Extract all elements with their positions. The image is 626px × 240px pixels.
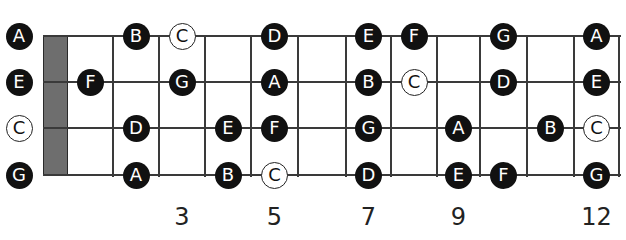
fret-number-3: 3 xyxy=(174,203,189,231)
fret-number-12: 12 xyxy=(581,203,612,231)
note-a-fret-5: D xyxy=(261,23,288,50)
fret-line-9 xyxy=(479,35,481,177)
note-a-fret-7: E xyxy=(355,23,382,50)
note-c-fret-0: C xyxy=(6,115,33,142)
note-e-fret-1: F xyxy=(77,69,104,96)
fret-line-12 xyxy=(618,35,620,177)
note-e-fret-10: D xyxy=(490,69,517,96)
fret-line-6 xyxy=(345,35,347,177)
note-e-fret-7: B xyxy=(355,69,382,96)
note-c-fret-4: E xyxy=(215,115,242,142)
fret-line-5 xyxy=(297,35,299,177)
note-c-fret-2: D xyxy=(123,115,150,142)
note-a-fret-8: F xyxy=(401,23,428,50)
note-c-fret-5: F xyxy=(261,115,288,142)
fret-line-10 xyxy=(526,35,528,177)
fret-line-11 xyxy=(573,35,575,177)
note-e-fret-5: A xyxy=(261,69,288,96)
note-g-fret-5: C xyxy=(261,162,288,189)
note-a-fret-3: C xyxy=(169,23,196,50)
string-line-e xyxy=(43,81,621,83)
fret-number-5: 5 xyxy=(267,203,282,231)
fretboard-diagram: ABCDEFGAEFGABCDECDEFGABCGABCDEFG357912 xyxy=(0,0,626,240)
note-a-fret-2: B xyxy=(123,23,150,50)
note-c-fret-11: B xyxy=(537,115,564,142)
fret-number-7: 7 xyxy=(361,203,376,231)
note-g-fret-10: F xyxy=(490,162,517,189)
note-e-fret-8: C xyxy=(401,69,428,96)
fret-line-2 xyxy=(158,35,160,177)
note-a-fret-10: G xyxy=(490,23,517,50)
note-c-fret-12: C xyxy=(583,115,610,142)
fret-line-8 xyxy=(436,35,438,177)
fret-line-4 xyxy=(250,35,252,177)
note-a-fret-0: A xyxy=(6,23,33,50)
note-g-fret-4: B xyxy=(215,162,242,189)
note-g-fret-9: E xyxy=(445,162,472,189)
note-g-fret-12: G xyxy=(583,162,610,189)
note-g-fret-0: G xyxy=(6,162,33,189)
note-a-fret-12: A xyxy=(583,23,610,50)
note-c-fret-7: G xyxy=(355,115,382,142)
note-g-fret-2: A xyxy=(123,162,150,189)
note-e-fret-0: E xyxy=(6,69,33,96)
nut xyxy=(43,35,68,176)
note-c-fret-9: A xyxy=(445,115,472,142)
fret-line-7 xyxy=(390,35,392,177)
fret-line-3 xyxy=(204,35,206,177)
fret-number-9: 9 xyxy=(451,203,466,231)
note-e-fret-12: E xyxy=(583,69,610,96)
note-g-fret-7: D xyxy=(355,162,382,189)
fret-line-1 xyxy=(112,35,114,177)
note-e-fret-3: G xyxy=(169,69,196,96)
